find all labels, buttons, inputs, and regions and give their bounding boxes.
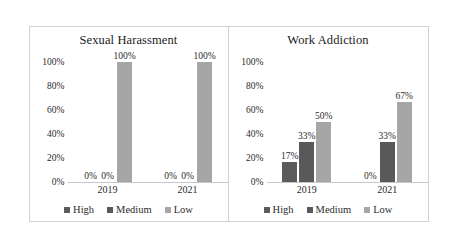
bar-group-2019: 0%0%100%	[83, 62, 132, 182]
bar-medium-2021	[380, 142, 395, 182]
panel-title-right: Work Addiction	[229, 27, 428, 48]
bar-slot-medium: 0%	[100, 62, 115, 182]
bar-value-label: 0%	[101, 171, 114, 181]
y-tick-label: 60%	[47, 105, 64, 115]
y-axis-right: 0%20%40%60%80%100%	[229, 48, 267, 184]
legend-item-label: Low	[174, 204, 193, 215]
x-tick-label-2021: 2021	[153, 184, 223, 195]
bar-value-label: 0%	[84, 171, 97, 181]
chart-panels: Sexual Harassment 0%20%40%60%80%100% 0%0…	[29, 26, 429, 222]
y-tick-label: 80%	[246, 81, 263, 91]
legend-item-high[interactable]: High	[264, 204, 294, 215]
bar-slot-low: 100%	[197, 62, 212, 182]
x-tick-label-2019: 2019	[73, 184, 143, 195]
y-tick-label: 0%	[251, 177, 264, 187]
square-swatch-icon	[64, 207, 70, 213]
bar-slot-medium: 33%	[299, 62, 314, 182]
x-axis-left: 20192021	[68, 184, 228, 201]
bar-group-2019: 17%33%50%	[282, 62, 331, 182]
legend-item-label: High	[73, 204, 94, 215]
bar-value-label: 100%	[113, 51, 135, 61]
bar-value-label: 0%	[164, 171, 177, 181]
bar-slot-high: 17%	[282, 62, 297, 182]
x-axis-line-right	[267, 182, 428, 183]
bar-value-label: 0%	[181, 171, 194, 181]
bar-groups-left: 0%0%100%0%0%100%	[68, 62, 228, 182]
bar-slot-medium: 0%	[180, 62, 195, 182]
square-swatch-icon	[364, 207, 370, 213]
figure-root: Sexual Harassment 0%20%40%60%80%100% 0%0…	[0, 0, 457, 248]
legend-item-medium[interactable]: Medium	[307, 204, 352, 215]
legend-item-low[interactable]: Low	[165, 204, 193, 215]
square-swatch-icon	[165, 207, 171, 213]
x-tick-label-2019: 2019	[272, 184, 342, 195]
bar-slot-high: 0%	[363, 62, 378, 182]
square-swatch-icon	[264, 207, 270, 213]
bar-slot-medium: 33%	[380, 62, 395, 182]
legend-item-low[interactable]: Low	[364, 204, 392, 215]
bar-value-label: 17%	[281, 151, 298, 161]
y-tick-label: 40%	[246, 129, 263, 139]
bar-low-2019	[316, 122, 331, 182]
y-tick-label: 0%	[52, 177, 65, 187]
bar-value-label: 0%	[364, 171, 377, 181]
bar-groups-right: 17%33%50%0%33%67%	[267, 62, 428, 182]
legend-item-label: High	[273, 204, 294, 215]
bar-medium-2019	[299, 142, 314, 182]
bar-value-label: 100%	[193, 51, 215, 61]
bar-group-2021: 0%33%67%	[363, 62, 412, 182]
y-tick-label: 100%	[241, 57, 263, 67]
bar-slot-low: 100%	[117, 62, 132, 182]
bar-value-label: 33%	[379, 131, 396, 141]
bar-low-2021	[397, 102, 412, 182]
x-axis-line-left	[68, 182, 228, 183]
bar-group-2021: 0%0%100%	[163, 62, 212, 182]
legend-item-high[interactable]: High	[64, 204, 94, 215]
y-axis-left: 0%20%40%60%80%100%	[30, 48, 68, 184]
y-tick-label: 100%	[42, 57, 64, 67]
y-tick-label: 20%	[47, 153, 64, 163]
x-axis-right: 20192021	[267, 184, 428, 201]
legend-item-label: Medium	[116, 204, 152, 215]
chart-panel-work-addiction: Work Addiction 0%20%40%60%80%100% 17%33%…	[229, 27, 428, 221]
square-swatch-icon	[307, 207, 313, 213]
y-tick-label: 40%	[47, 129, 64, 139]
bar-value-label: 67%	[396, 91, 413, 101]
bar-slot-low: 50%	[316, 62, 331, 182]
bar-value-label: 33%	[298, 131, 315, 141]
x-tick-label-2021: 2021	[352, 184, 422, 195]
bar-slot-high: 0%	[83, 62, 98, 182]
plot-wrap-left: 0%20%40%60%80%100% 0%0%100%0%0%100%	[30, 48, 228, 184]
y-tick-label: 80%	[47, 81, 64, 91]
bar-slot-low: 67%	[397, 62, 412, 182]
bar-value-label: 50%	[315, 111, 332, 121]
legend-left: HighMediumLow	[30, 201, 228, 221]
chart-panel-sexual-harassment: Sexual Harassment 0%20%40%60%80%100% 0%0…	[30, 27, 229, 221]
legend-item-label: Medium	[316, 204, 352, 215]
legend-item-label: Low	[373, 204, 392, 215]
panel-title-left: Sexual Harassment	[30, 27, 228, 48]
square-swatch-icon	[107, 207, 113, 213]
bar-slot-high: 0%	[163, 62, 178, 182]
plot-area-right: 17%33%50%0%33%67%	[267, 48, 428, 184]
plot-area-left: 0%0%100%0%0%100%	[68, 48, 228, 184]
bar-low-2021	[197, 62, 212, 182]
bar-low-2019	[117, 62, 132, 182]
legend-item-medium[interactable]: Medium	[107, 204, 152, 215]
y-tick-label: 20%	[246, 153, 263, 163]
y-tick-label: 60%	[246, 105, 263, 115]
plot-wrap-right: 0%20%40%60%80%100% 17%33%50%0%33%67%	[229, 48, 428, 184]
legend-right: HighMediumLow	[229, 201, 428, 221]
bar-high-2019	[282, 162, 297, 182]
